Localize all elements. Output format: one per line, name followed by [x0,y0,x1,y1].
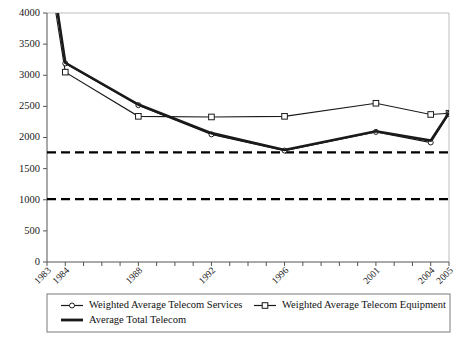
series-weighted-average-telecom-services-line [47,0,449,151]
y-tick-label: 2000 [19,131,40,142]
series-average-total-telecom-line [47,0,449,150]
y-tick-label: 3500 [19,38,40,49]
legend-label-1: Weighted Average Telecom Equipment [282,299,446,310]
x-tick-label: 1996 [270,265,291,286]
x-tick-label: 1983 [32,265,53,286]
legend-label-2: Average Total Telecom [89,314,186,325]
y-tick-label: 1000 [19,194,40,205]
series-weighted-average-telecom-equipment-point-marker [428,112,434,118]
y-tick-label: 3000 [19,69,40,80]
y-tick-label: 0 [35,256,40,267]
legend-item-0[interactable]: Weighted Average Telecom Services [61,299,242,310]
y-tick-label: 2500 [19,100,40,111]
chart-canvas: 0500100015002000250030003500400019831984… [0,0,460,344]
x-tick-label: 2001 [361,265,382,286]
telecom-index-line-chart: 0500100015002000250030003500400019831984… [0,0,460,344]
series-weighted-average-telecom-equipment-point-marker [62,69,68,75]
series-weighted-average-telecom-equipment-point-marker [136,114,142,120]
legend-item-2[interactable]: Average Total Telecom [61,314,186,325]
legend-label-0: Weighted Average Telecom Services [89,299,242,310]
series-weighted-average-telecom-equipment-point-marker [209,114,215,120]
legend-square-marker-icon [262,303,268,309]
y-tick-label: 4000 [19,7,40,18]
x-tick-label: 1984 [51,265,72,286]
legend-item-1[interactable]: Weighted Average Telecom Equipment [254,299,446,310]
legend-circle-marker-icon [70,303,75,308]
series-group [47,0,452,153]
series-weighted-average-telecom-equipment-line [47,0,449,117]
x-tick-label: 2005 [434,265,455,286]
y-tick-label: 500 [24,225,40,236]
x-tick-label: 2004 [416,265,437,286]
series-weighted-average-telecom-equipment-point-marker [282,114,288,120]
series-weighted-average-telecom-equipment-point-marker [373,100,379,106]
y-tick-label: 1500 [19,163,40,174]
x-tick-label: 1988 [124,265,145,286]
x-tick-label: 1992 [197,265,218,286]
